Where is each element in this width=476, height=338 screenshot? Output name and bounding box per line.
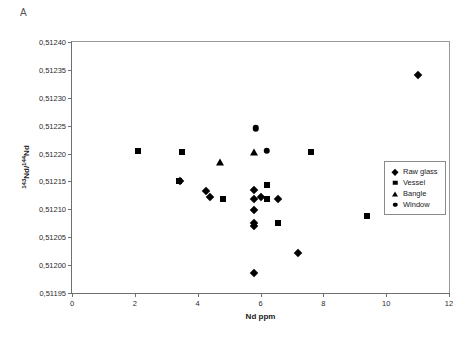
legend-item-label: Bangle — [403, 189, 426, 198]
legend-item-label: Window — [403, 200, 430, 209]
triangle-marker-icon — [392, 191, 398, 196]
y-axis-title: 143Nd/144Nd — [21, 145, 32, 189]
data-point-vessel — [308, 149, 314, 155]
y-axis-tick — [68, 70, 72, 71]
y-axis-tick-label: 0,51195 — [39, 289, 66, 298]
legend: Raw glassVesselBangleWindow — [384, 161, 446, 215]
y-axis-tick — [68, 181, 72, 182]
x-axis-tick — [198, 293, 199, 297]
x-axis-tick-label: 12 — [445, 299, 453, 308]
y-axis-tick — [68, 265, 72, 266]
data-point-vessel — [135, 148, 141, 154]
data-point-vessel — [264, 196, 270, 202]
x-axis-tick-label: 8 — [321, 299, 325, 308]
data-point-vessel — [179, 149, 185, 155]
square-marker-icon — [393, 180, 398, 185]
y-axis-tick-label: 0,51225 — [39, 121, 66, 130]
legend-item-label: Vessel — [403, 178, 425, 187]
y-axis-tick-label: 0,51220 — [39, 149, 66, 158]
triangle-icon — [390, 189, 400, 199]
diamond-marker-icon — [392, 168, 398, 174]
y-axis-tick-label: 0,51205 — [39, 233, 66, 242]
y-axis-tick-label: 0,51235 — [39, 65, 66, 74]
y-axis-tick-label: 0,51200 — [39, 261, 66, 270]
y-axis-tick-label: 0,51230 — [39, 93, 66, 102]
x-axis-tick-label: 2 — [133, 299, 137, 308]
data-point-vessel — [364, 213, 370, 219]
data-point-bangle — [216, 158, 224, 165]
x-axis-tick — [72, 293, 73, 297]
circle-icon — [390, 200, 400, 210]
data-point-window — [253, 125, 260, 132]
x-axis-tick-label: 4 — [196, 299, 200, 308]
y-axis-tick-label: 0,51215 — [39, 177, 66, 186]
y-axis-title-denominator: 144 — [21, 156, 27, 166]
x-axis-tick — [323, 293, 324, 297]
y-axis-tick — [68, 237, 72, 238]
legend-item-label: Raw glass — [403, 167, 438, 176]
x-axis-tick — [386, 293, 387, 297]
y-axis-tick — [68, 42, 72, 43]
data-point-raw-glass — [413, 71, 421, 79]
y-axis-tick-label: 0,51210 — [39, 205, 66, 214]
x-axis-tick-label: 0 — [70, 299, 74, 308]
data-point-raw-glass — [274, 195, 282, 203]
data-point-vessel — [220, 196, 226, 202]
x-axis-tick-label: 6 — [258, 299, 262, 308]
diamond-icon — [390, 167, 400, 177]
y-axis-tick — [68, 126, 72, 127]
y-axis-tick — [68, 98, 72, 99]
data-point-vessel — [264, 182, 270, 188]
data-point-raw-glass — [250, 269, 258, 277]
data-point-raw-glass — [250, 206, 258, 214]
data-point-bangle — [250, 149, 258, 156]
x-axis-tick — [261, 293, 262, 297]
legend-item-vessel[interactable]: Vessel — [390, 177, 438, 188]
y-axis-tick — [68, 209, 72, 210]
y-axis-title-numerator: 143 — [21, 179, 27, 189]
data-point-raw-glass — [250, 186, 258, 194]
x-axis-tick — [135, 293, 136, 297]
data-point-vessel — [275, 220, 281, 226]
circle-marker-icon — [393, 202, 398, 207]
data-point-vessel — [176, 178, 182, 184]
x-axis-title: Nd ppm — [71, 312, 450, 321]
data-point-window — [264, 148, 271, 155]
legend-item-bangle[interactable]: Bangle — [390, 188, 438, 199]
data-point-raw-glass — [294, 249, 302, 257]
square-icon — [390, 178, 400, 188]
x-axis-tick — [449, 293, 450, 297]
x-axis-tick-label: 10 — [382, 299, 390, 308]
legend-item-raw-glass[interactable]: Raw glass — [390, 166, 438, 177]
panel-label: A — [20, 7, 27, 18]
figure-panel-a: A 143Nd/144Nd Nd ppm 0,511950,512000,512… — [0, 0, 476, 338]
legend-item-window[interactable]: Window — [390, 199, 438, 210]
data-point-raw-glass — [206, 193, 214, 201]
y-axis-tick — [68, 154, 72, 155]
y-axis-tick-label: 0,51240 — [39, 38, 66, 47]
